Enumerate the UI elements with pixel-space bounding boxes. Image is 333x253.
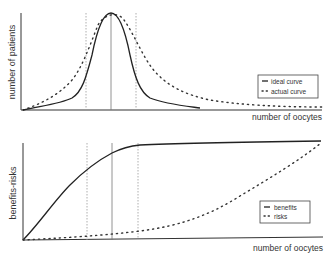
legend-risks: risks [274,213,288,220]
risks-curve [23,143,321,240]
chart-canvas: number of patients number of oocytes ide… [0,0,333,253]
top-legend: ideal curve actual curve [258,75,318,98]
legend-benefits: benefits [274,204,298,211]
bottom-x-axis [23,237,323,240]
bottom-legend: benefits risks [260,201,310,223]
benefits-curve [23,141,321,240]
bottom-y-axis-label: benefits-risks [8,166,18,220]
legend-ideal-curve: ideal curve [271,78,303,85]
legend-actual-curve: actual curve [271,88,306,95]
ideal-curve [23,13,200,110]
bottom-x-axis-label: number of oocytes [253,243,323,253]
top-x-axis-label: number of oocytes [252,112,322,122]
top-chart: number of patients number of oocytes ide… [7,13,322,122]
bottom-chart: benefits-risks number of oocytes benefit… [8,141,323,253]
figure: number of patients number of oocytes ide… [0,0,333,253]
top-y-axis-label: number of patients [7,24,17,99]
